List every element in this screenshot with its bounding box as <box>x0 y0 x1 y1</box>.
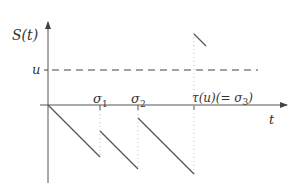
segment-2 <box>100 131 138 169</box>
sigma2-label: σ2 <box>131 92 146 109</box>
x-axis-label: t <box>269 113 274 126</box>
y-axis-label: S(t) <box>12 28 38 42</box>
ruin-process-diagram: S(t) u t σ1 σ2 τ(u)(= σ3) <box>0 0 297 192</box>
tau-label: τ(u)(= σ3) <box>192 92 253 107</box>
segment-3 <box>138 118 194 174</box>
threshold-label: u <box>32 63 40 76</box>
segment-4 <box>194 34 206 46</box>
sigma1-label: σ1 <box>93 92 108 109</box>
segment-1 <box>48 105 100 157</box>
